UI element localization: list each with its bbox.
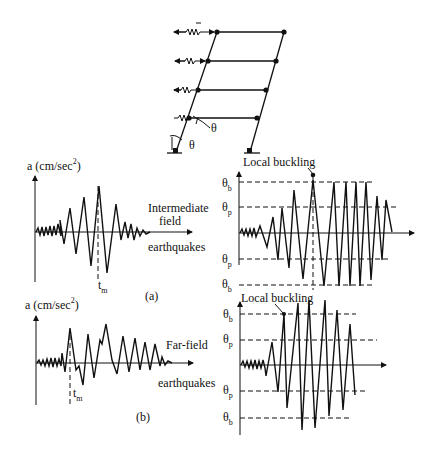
spring-icons — [174, 23, 214, 121]
ylabel-b: a (cm/sec2) — [25, 296, 79, 312]
accel-trace-a — [36, 186, 150, 273]
response-b-rotation: Local buckling θb θp θp θb — [223, 291, 386, 435]
local-buckling-label-b: Local buckling — [241, 291, 313, 305]
tm-label-a: tm — [98, 278, 108, 295]
caption-a: (a) — [145, 289, 158, 303]
theta-p-label-a2: θp — [222, 252, 232, 269]
figure-canvas: θ θ a (cm/sec2) tm Intermediate field ea… — [0, 0, 436, 458]
theta-label-joint: θ — [211, 121, 217, 135]
label-field: field — [159, 214, 181, 228]
theta-b-label-a2: θb — [222, 277, 232, 294]
frame-diagram: θ θ — [167, 23, 287, 153]
label-intermediate: Intermediate — [148, 201, 209, 215]
label-far-field: Far-field — [166, 338, 208, 352]
caption-b: (b) — [136, 410, 150, 424]
theta-p-label-a1: θp — [222, 200, 232, 217]
ylabel-a: a (cm/sec2) — [27, 157, 81, 173]
tm-label-b: tm — [73, 386, 83, 403]
theta-b-label-b2: θb — [223, 410, 233, 427]
local-buckling-label-a: Local buckling — [243, 155, 315, 169]
theta-p-label-b2: θp — [223, 383, 233, 400]
response-a-rotation: Local buckling θb θp θp θb — [222, 155, 414, 294]
theta-p-label-b1: θp — [223, 332, 233, 349]
theta-label-base: θ — [189, 138, 195, 152]
panel-a-acceleration: a (cm/sec2) tm Intermediate field earthq… — [27, 157, 209, 303]
accel-trace-b — [37, 324, 172, 385]
theta-b-label-a1: θb — [222, 176, 232, 193]
theta-b-label-b1: θb — [223, 307, 233, 324]
panel-b-acceleration: a (cm/sec2) tm Far-field earthquakes (b) — [25, 296, 216, 424]
label-earthquakes-b: earthquakes — [158, 376, 216, 390]
label-earthquakes-a: earthquakes — [148, 240, 206, 254]
